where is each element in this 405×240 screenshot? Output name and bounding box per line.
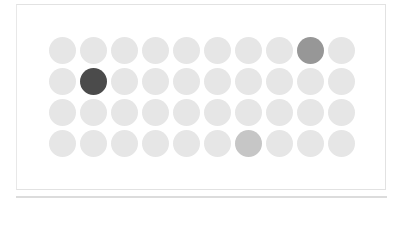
dot-r1-c9 — [297, 37, 324, 64]
dot-r4-c6 — [204, 130, 231, 157]
dot-r3-c6 — [204, 99, 231, 126]
separator-line — [16, 196, 387, 198]
dot-r1-c6 — [204, 37, 231, 64]
dot-r1-c8 — [266, 37, 293, 64]
dot-r3-c10 — [328, 99, 355, 126]
dot-r3-c7 — [235, 99, 262, 126]
dot-r4-c5 — [173, 130, 200, 157]
dot-r1-c1 — [49, 37, 76, 64]
dot-r4-c3 — [111, 130, 138, 157]
dot-r3-c8 — [266, 99, 293, 126]
dot-r4-c7 — [235, 130, 262, 157]
dot-r1-c2 — [80, 37, 107, 64]
dot-r2-c5 — [173, 68, 200, 95]
dot-r2-c3 — [111, 68, 138, 95]
dot-r4-c9 — [297, 130, 324, 157]
dot-r2-c6 — [204, 68, 231, 95]
dot-r3-c4 — [142, 99, 169, 126]
dot-r2-c8 — [266, 68, 293, 95]
dot-r1-c4 — [142, 37, 169, 64]
dot-r4-c10 — [328, 130, 355, 157]
dot-r2-c2 — [80, 68, 107, 95]
dot-r2-c7 — [235, 68, 262, 95]
dot-r3-c2 — [80, 99, 107, 126]
dot-grid — [49, 37, 355, 157]
dot-r3-c9 — [297, 99, 324, 126]
dot-r4-c4 — [142, 130, 169, 157]
dot-r4-c2 — [80, 130, 107, 157]
dot-r1-c5 — [173, 37, 200, 64]
dot-r3-c5 — [173, 99, 200, 126]
dot-r3-c1 — [49, 99, 76, 126]
dot-r2-c9 — [297, 68, 324, 95]
dot-r1-c7 — [235, 37, 262, 64]
dot-r4-c1 — [49, 130, 76, 157]
dot-r2-c10 — [328, 68, 355, 95]
dot-r4-c8 — [266, 130, 293, 157]
dot-r1-c10 — [328, 37, 355, 64]
dot-r1-c3 — [111, 37, 138, 64]
dot-r3-c3 — [111, 99, 138, 126]
dot-r2-c4 — [142, 68, 169, 95]
dot-r2-c1 — [49, 68, 76, 95]
